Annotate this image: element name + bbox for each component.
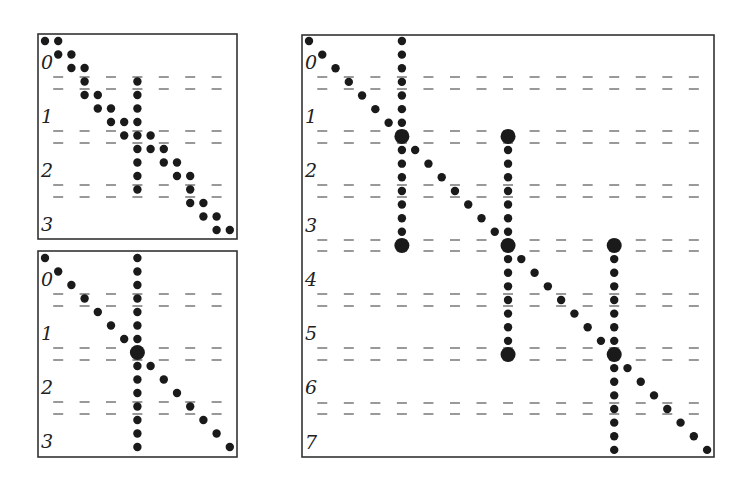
nonzero-entry [610,391,618,399]
nonzero-entry [133,375,141,383]
nonzero-entry [186,402,194,410]
nonzero-entry [133,118,141,126]
panel-a: 0123 [38,34,237,239]
nonzero-entry [477,214,485,222]
nonzero-entry [610,269,618,277]
nonzero-entry [54,37,62,45]
nonzero-entry [331,64,339,72]
nonzero-entry [504,255,512,263]
nonzero-entry [583,323,591,331]
nonzero-entry [504,187,512,195]
nonzero-entry [133,172,141,180]
block-index-label: 1 [41,105,53,127]
nonzero-entry [133,267,141,275]
nonzero-entry [94,104,102,112]
nonzero-entry [570,309,578,317]
block-index-label: 5 [305,322,317,344]
nonzero-entry [160,375,168,383]
block-index-label: 0 [41,51,53,73]
nonzero-entry [146,131,154,139]
nonzero-entry [94,91,102,99]
nonzero-entry [610,418,618,426]
nonzero-entry [637,378,645,386]
nonzero-entry [690,432,698,440]
nonzero-entry [371,105,379,113]
panel-c: 01234567 [302,35,714,457]
nonzero-entry [133,389,141,397]
nonzero-entry [133,308,141,316]
block-index-label: 6 [305,376,317,398]
block-index-label: 2 [40,376,53,398]
nonzero-entry [133,254,141,262]
nonzero-entry [504,323,512,331]
block-index-label: 2 [304,159,317,181]
nonzero-entry [358,91,366,99]
nonzero-entry [676,418,684,426]
nonzero-entry [504,309,512,317]
pivot-entry [607,238,622,253]
nonzero-entry [530,269,538,277]
block-index-label: 4 [304,268,317,290]
nonzero-entry [173,158,181,166]
pivot-entry [394,238,409,253]
nonzero-entry [120,335,128,343]
nonzero-entry [133,145,141,153]
nonzero-entry [597,337,605,345]
nonzero-entry [54,50,62,58]
nonzero-entry [54,267,62,275]
nonzero-entry [398,50,406,58]
nonzero-entry [133,158,141,166]
nonzero-entry [133,402,141,410]
nonzero-entry [504,228,512,236]
nonzero-entry [517,255,525,263]
nonzero-entry [80,77,88,85]
nonzero-entry [67,64,75,72]
nonzero-entry [199,212,207,220]
nonzero-entry [133,429,141,437]
nonzero-entry [544,282,552,290]
nonzero-entry [41,37,49,45]
nonzero-entry [504,173,512,181]
nonzero-entry [491,228,499,236]
nonzero-entry [80,64,88,72]
nonzero-entry [557,296,565,304]
nonzero-entry [199,199,207,207]
nonzero-entry [107,118,115,126]
nonzero-entry [464,200,472,208]
nonzero-entry [173,172,181,180]
nonzero-entry [610,432,618,440]
nonzero-entry [424,159,432,167]
block-index-label: 3 [41,430,53,452]
nonzero-entry [133,91,141,99]
block-index-label: 1 [41,322,53,344]
nonzero-entry [133,321,141,329]
nonzero-entry [133,131,141,139]
nonzero-entry [504,214,512,222]
nonzero-entry [212,226,220,234]
nonzero-entry [398,91,406,99]
nonzero-entry [504,337,512,345]
nonzero-entry [504,296,512,304]
sparsity-diagram: 0123 0123 01234567 [0,0,752,480]
nonzero-entry [451,187,459,195]
nonzero-entry [160,145,168,153]
nonzero-entry [411,146,419,154]
nonzero-entry [186,172,194,180]
nonzero-entry [623,364,631,372]
nonzero-entry [133,362,141,370]
nonzero-entry [384,119,392,127]
nonzero-entry [703,446,711,454]
nonzero-entry [398,228,406,236]
nonzero-entry [146,145,154,153]
nonzero-entry [186,185,194,193]
nonzero-entry [120,131,128,139]
block-index-label: 7 [305,431,318,453]
nonzero-entry [610,323,618,331]
nonzero-entry [107,321,115,329]
pivot-entry [501,129,516,144]
pivot-entry [607,347,622,362]
nonzero-entry [41,254,49,262]
nonzero-entry [610,337,618,345]
nonzero-entry [663,405,671,413]
nonzero-entry [398,214,406,222]
